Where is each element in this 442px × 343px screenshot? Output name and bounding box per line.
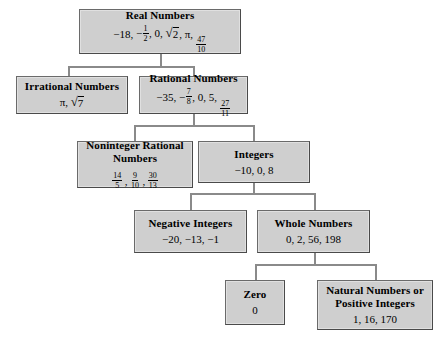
node-integers-title: Integers [234,148,273,161]
node-natural-title-line1: Natural Numbers or [326,284,424,297]
connector-real-bus [68,66,194,68]
node-zero-values: 0 [252,303,258,317]
node-rational-numbers: Rational Numbers −35, −78, 0, 5, 2711 [139,76,248,114]
node-real-numbers: Real Numbers −18, −12, 0, √2, π, 4710 [79,9,241,54]
node-natural-title-line2: Positive Integers [335,297,415,310]
node-noninteger-rational-numbers: Noninteger Rational Numbers 145, 910, 30… [77,141,193,188]
rational-value-2: −78, 0, 5, [179,87,217,106]
node-noninteger-title-line2: Numbers [113,152,157,165]
connector-to-integers [253,125,255,141]
fraction-14-5: 145 [112,171,122,190]
connector-real-down [160,53,162,67]
fraction-30-13: 3013 [148,171,158,190]
node-negative-integers: Negative Integers −20, −13, −1 [134,210,247,253]
node-negative-integers-title: Negative Integers [149,217,233,230]
connector-to-negative-integers [190,193,192,210]
node-real-numbers-title: Real Numbers [126,9,195,22]
radical-sqrt-2: √2 [166,26,180,41]
node-irrational-numbers-title: Irrational Numbers [25,80,119,93]
node-irrational-numbers-values: π, √7 [60,95,85,110]
node-whole-numbers: Whole Numbers 0, 2, 56, 198 [257,210,370,253]
fraction-9-10: 910 [130,171,140,190]
fraction-7-8: 78 [186,87,192,106]
connector-to-natural [375,264,377,280]
node-real-numbers-values: −18, −12, 0, √2, π, 4710 [113,24,207,54]
fraction-47-10: 4710 [196,35,206,54]
irrational-value-1: π, [60,96,68,108]
connector-to-whole [314,193,316,210]
node-negative-integers-values: −20, −13, −1 [162,232,219,246]
node-irrational-numbers: Irrational Numbers π, √7 [16,76,128,114]
node-whole-numbers-title: Whole Numbers [275,217,353,230]
fraction-27-11: 2711 [220,99,230,118]
node-zero-title: Zero [244,288,267,301]
real-value-2: −12, 0, [136,24,163,43]
node-integers: Integers −10, 0, 8 [198,141,310,183]
fraction-one-half: 12 [143,24,149,43]
connector-whole-bus [255,264,377,266]
node-whole-numbers-values: 0, 2, 56, 198 [286,232,341,246]
node-noninteger-title-line1: Noninteger Rational [86,139,183,152]
connector-rational-bus [134,125,254,127]
connector-to-zero [255,264,257,280]
node-natural-numbers: Natural Numbers or Positive Integers 1, … [317,280,433,330]
node-zero: Zero 0 [225,280,285,325]
radical-sign-icon: √ [166,26,173,39]
connector-integers-bus [190,193,315,195]
node-noninteger-values: 145, 910, 3013 [112,167,159,190]
connector-to-irrational [68,66,70,76]
real-value-1: −18, [113,27,133,39]
number-classification-diagram: Real Numbers −18, −12, 0, √2, π, 4710 Ir… [0,0,442,343]
node-natural-values: 1, 16, 170 [353,312,397,326]
radical-sqrt-7: √7 [71,95,85,110]
node-rational-numbers-values: −35, −78, 0, 5, 2711 [156,87,230,117]
node-integers-values: −10, 0, 8 [234,163,273,177]
radical-sign-icon: √ [71,95,78,108]
node-rational-numbers-title: Rational Numbers [149,72,237,85]
rational-value-1: −35, [156,91,176,103]
